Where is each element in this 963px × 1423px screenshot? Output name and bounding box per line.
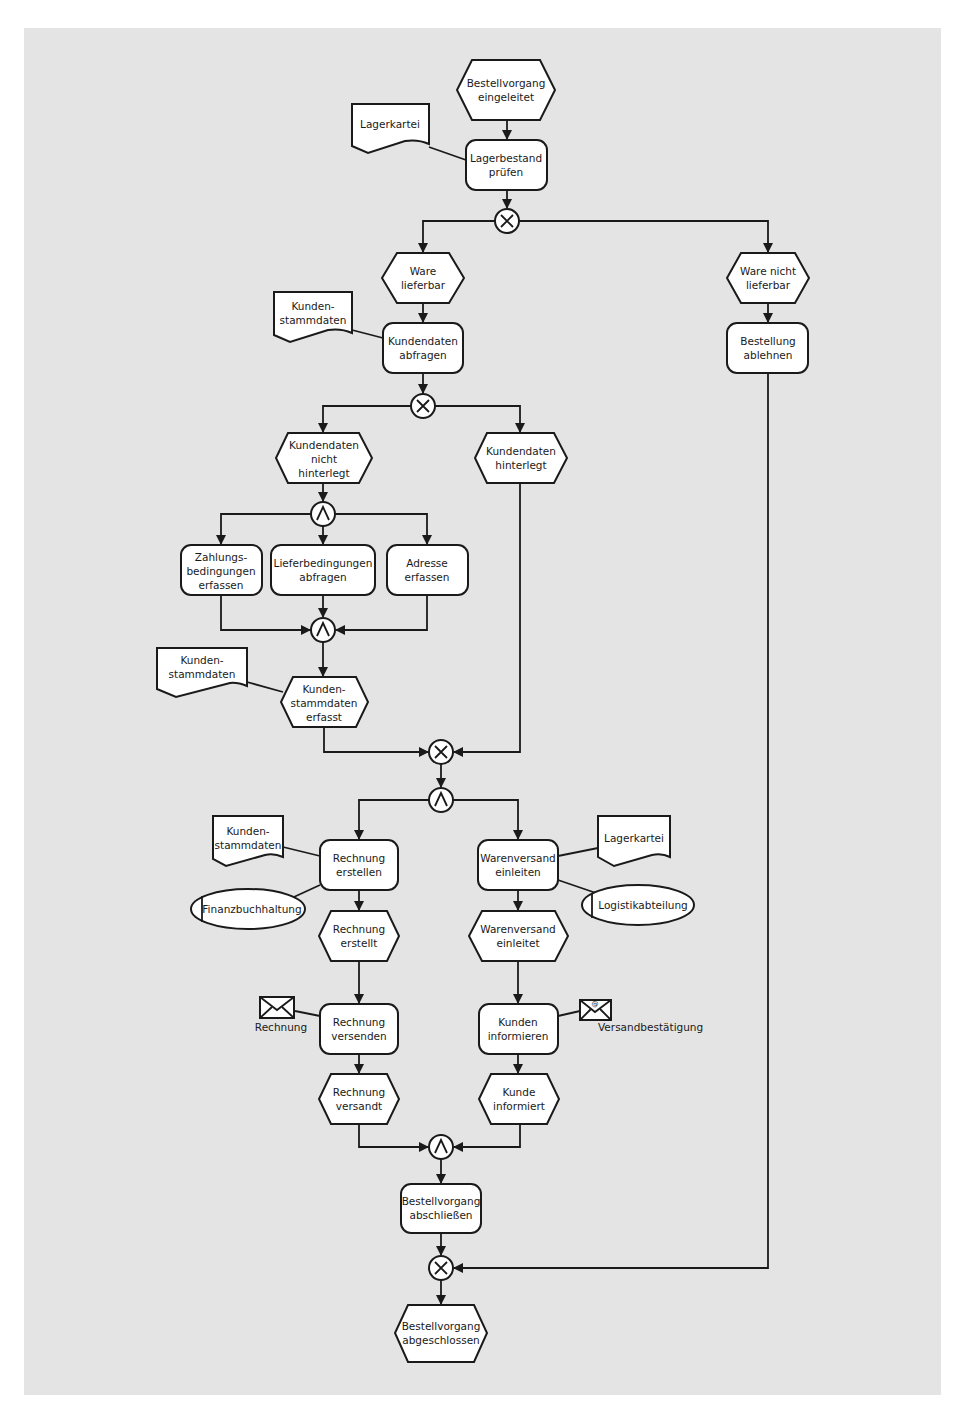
message-label: Rechnung xyxy=(255,1021,307,1033)
function-label-line: Lieferbedingungen xyxy=(274,557,373,569)
event-label-line: Kundendaten xyxy=(486,445,556,457)
document-lagerkartei-1[interactable]: Lagerkartei xyxy=(352,104,429,153)
event-bestellvorgang-abgeschlossen[interactable]: Bestellvorgang abgeschlossen xyxy=(395,1305,487,1362)
connector-xor-2[interactable] xyxy=(411,394,435,418)
document-kundenstammdaten-2[interactable]: Kunden- stammdaten xyxy=(157,648,247,697)
event-label-line: hinterlegt xyxy=(298,467,349,479)
connector-and-1[interactable] xyxy=(311,502,335,526)
message-versandbestaetigung[interactable]: @ Versandbestätigung xyxy=(580,1000,703,1033)
function-warenversand-einleiten[interactable]: Warenversand einleiten xyxy=(478,840,558,890)
function-adresse-erfassen[interactable]: Adresse erfassen xyxy=(387,545,468,595)
function-label-line: Zahlungs- xyxy=(195,551,248,563)
event-label-line: einleitet xyxy=(496,937,539,949)
event-label-line: Kundendaten xyxy=(289,439,359,451)
event-label-line: nicht xyxy=(311,453,337,465)
function-label-line: prüfen xyxy=(489,166,523,178)
event-warenversand-einleitet[interactable]: Warenversand einleitet xyxy=(469,911,568,961)
document-kundenstammdaten-3[interactable]: Kunden- stammdaten xyxy=(213,816,283,866)
function-label-line: abfragen xyxy=(299,571,346,583)
function-label-line: Adresse xyxy=(406,557,448,569)
function-rechnung-versenden[interactable]: Rechnung versenden xyxy=(320,1004,398,1054)
document-label-line: Kunden- xyxy=(180,654,223,666)
event-kundenstammdaten-erfasst[interactable]: Kunden- stammdaten erfasst xyxy=(281,677,368,727)
function-bestellung-ablehnen[interactable]: Bestellung ablehnen xyxy=(727,323,808,373)
org-unit-finanzbuchhaltung[interactable]: Finanzbuchhaltung xyxy=(191,889,305,929)
event-kundendaten-nicht-hinterlegt[interactable]: Kundendaten nicht hinterlegt xyxy=(276,433,372,483)
connector-xor-3[interactable] xyxy=(429,740,453,764)
event-label-line: versandt xyxy=(336,1100,382,1112)
event-label-line: Bestellvorgang xyxy=(402,1320,481,1332)
event-label-line: Kunden- xyxy=(302,683,345,695)
event-label-line: Rechnung xyxy=(333,923,385,935)
event-kunde-informiert[interactable]: Kunde informiert xyxy=(479,1074,559,1124)
function-label-line: einleiten xyxy=(495,866,541,878)
function-kundendaten-abfragen[interactable]: Kundendaten abfragen xyxy=(383,323,463,373)
connector-and-2[interactable] xyxy=(311,618,335,642)
function-label-line: Rechnung xyxy=(333,1016,385,1028)
function-label-line: Bestellung xyxy=(740,335,796,347)
event-label-line: Warenversand xyxy=(480,923,556,935)
function-label-line: Bestellvorgang xyxy=(402,1195,481,1207)
function-rechnung-erstellen[interactable]: Rechnung erstellen xyxy=(320,840,398,890)
document-lagerkartei-2[interactable]: Lagerkartei xyxy=(598,816,670,866)
event-label-line: abgeschlossen xyxy=(402,1334,480,1346)
event-label-line: Rechnung xyxy=(333,1086,385,1098)
email-envelope-icon: @ xyxy=(580,1000,611,1020)
org-unit-label: Finanzbuchhaltung xyxy=(202,903,301,915)
function-label-line: erstellen xyxy=(336,866,382,878)
org-unit-label: Logistikabteilung xyxy=(598,899,688,911)
connector-xor-4[interactable] xyxy=(429,1256,453,1280)
document-label-line: Kunden- xyxy=(291,300,334,312)
function-bestellvorgang-abschliessen[interactable]: Bestellvorgang abschließen xyxy=(401,1184,481,1233)
function-label-line: erfassen xyxy=(405,571,450,583)
document-label-line: Lagerkartei xyxy=(360,118,420,130)
event-rechnung-versandt[interactable]: Rechnung versandt xyxy=(319,1074,399,1124)
event-label-line: erstellt xyxy=(341,937,378,949)
message-label: Versandbestätigung xyxy=(598,1021,703,1033)
function-lieferbedingungen-abfragen[interactable]: Lieferbedingungen abfragen xyxy=(271,545,375,595)
function-label-line: Kundendaten xyxy=(388,335,458,347)
function-label-line: Warenversand xyxy=(480,852,556,864)
function-zahlungsbedingungen-erfassen[interactable]: Zahlungs- bedingungen erfassen xyxy=(181,545,262,595)
function-label-line: Kunden xyxy=(498,1016,537,1028)
function-lagerbestand-pruefen[interactable]: Lagerbestand prüfen xyxy=(466,140,547,190)
document-label-line: Lagerkartei xyxy=(604,832,664,844)
function-label-line: bedingungen xyxy=(186,565,255,577)
event-label-line: Ware xyxy=(410,265,437,277)
function-label-line: abschließen xyxy=(409,1209,472,1221)
event-label-line: stammdaten xyxy=(291,697,358,709)
function-kunden-informieren[interactable]: Kunden informieren xyxy=(479,1004,558,1054)
document-label-line: stammdaten xyxy=(215,839,282,851)
svg-text:@: @ xyxy=(592,1000,599,1008)
envelope-icon xyxy=(260,997,294,1018)
function-label-line: versenden xyxy=(331,1030,386,1042)
function-label-line: erfassen xyxy=(199,579,244,591)
event-kundendaten-hinterlegt[interactable]: Kundendaten hinterlegt xyxy=(475,433,567,483)
function-label-line: Rechnung xyxy=(333,852,385,864)
epc-diagram: Bestellvorgang eingeleitet Ware lieferba… xyxy=(0,0,963,1423)
event-label-line: Ware nicht xyxy=(740,265,796,277)
event-label-line: eingeleitet xyxy=(478,91,534,103)
connector-and-3[interactable] xyxy=(429,788,453,812)
function-label-line: Lagerbestand xyxy=(470,152,542,164)
connector-xor-1[interactable] xyxy=(495,209,519,233)
function-label-line: ablehnen xyxy=(744,349,793,361)
document-kundenstammdaten-1[interactable]: Kunden- stammdaten xyxy=(274,292,352,342)
event-label-line: Bestellvorgang xyxy=(467,77,546,89)
event-label-line: informiert xyxy=(493,1100,545,1112)
event-ware-lieferbar[interactable]: Ware lieferbar xyxy=(382,253,464,303)
org-unit-logistikabteilung[interactable]: Logistikabteilung xyxy=(582,885,694,925)
function-label-line: abfragen xyxy=(399,349,446,361)
function-label-line: informieren xyxy=(488,1030,549,1042)
event-label-line: lieferbar xyxy=(746,279,791,291)
event-rechnung-erstellt[interactable]: Rechnung erstellt xyxy=(319,911,399,961)
event-bestellvorgang-eingeleitet[interactable]: Bestellvorgang eingeleitet xyxy=(457,60,555,120)
document-label-line: stammdaten xyxy=(169,668,236,680)
message-rechnung[interactable]: Rechnung xyxy=(255,997,307,1033)
event-label-line: hinterlegt xyxy=(495,459,546,471)
event-ware-nicht-lieferbar[interactable]: Ware nicht lieferbar xyxy=(727,253,809,303)
document-label-line: stammdaten xyxy=(280,314,347,326)
event-label-line: Kunde xyxy=(503,1086,536,1098)
connector-and-4[interactable] xyxy=(429,1135,453,1159)
event-label-line: erfasst xyxy=(306,711,342,723)
